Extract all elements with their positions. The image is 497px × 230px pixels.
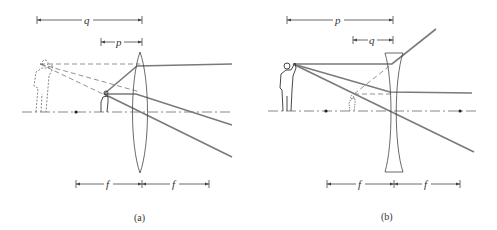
caption-a: (a) <box>134 212 145 224</box>
label-q-a: q <box>84 14 90 26</box>
virtual-image-person-a <box>34 60 53 112</box>
dimension-p-a <box>101 38 142 46</box>
dimension-q-a <box>37 16 142 24</box>
dimension-f-b <box>327 180 460 188</box>
label-q-b: q <box>369 34 375 46</box>
virtual-image-person-b <box>349 96 355 112</box>
label-f-right-b: f <box>424 178 429 190</box>
virtual-rays-b <box>354 64 392 94</box>
dimension-f-a <box>76 180 209 188</box>
lens-diagram-figure: q p <box>0 0 497 230</box>
focal-point-a <box>74 110 77 113</box>
diagram-canvas: q p <box>0 0 497 230</box>
label-p-a: p <box>115 36 122 48</box>
panel-b: p q <box>268 14 477 223</box>
rays-a <box>104 64 232 157</box>
label-f-left-a: f <box>106 178 111 190</box>
rays-b <box>293 29 474 152</box>
focal-point-right-b <box>458 109 461 112</box>
label-f-left-b: f <box>358 178 363 190</box>
panel-a: q p <box>22 14 232 224</box>
label-p-b: p <box>334 14 341 26</box>
focal-point-left-b <box>324 109 327 112</box>
virtual-rays-a <box>40 64 140 95</box>
object-person-b <box>280 63 296 111</box>
caption-b: (b) <box>381 211 393 223</box>
label-f-right-a: f <box>172 178 177 190</box>
